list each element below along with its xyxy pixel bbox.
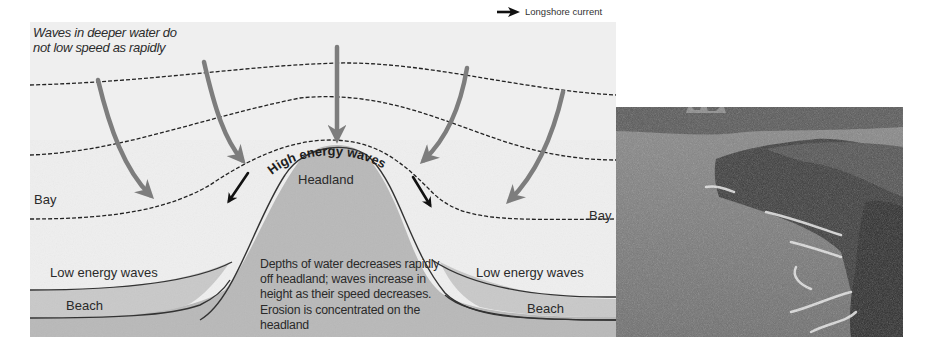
low-energy-left-label: Low energy waves bbox=[50, 265, 158, 280]
coastal-headland-photo bbox=[616, 107, 903, 337]
caption-line-1: Waves in deeper water do bbox=[33, 25, 177, 40]
legend-label: Longshore current bbox=[525, 6, 602, 17]
bay-left-label: Bay bbox=[34, 192, 56, 207]
photo-illustration bbox=[616, 107, 903, 337]
caption-line-2: not low speed as rapidly bbox=[33, 40, 177, 55]
bay-right-label: Bay bbox=[589, 208, 611, 223]
low-energy-right-label: Low energy waves bbox=[476, 265, 584, 280]
explanation-text: Depths of water decreases rapidly off he… bbox=[260, 257, 445, 333]
beach-right-label: Beach bbox=[527, 301, 564, 316]
beach-left-label: Beach bbox=[66, 298, 103, 313]
headland-label: Headland bbox=[298, 172, 354, 187]
caption: Waves in deeper water do not low speed a… bbox=[33, 25, 177, 55]
legend: Longshore current bbox=[499, 6, 602, 17]
wave-refraction-figure: High energy waves Waves in deeper water … bbox=[0, 0, 926, 353]
